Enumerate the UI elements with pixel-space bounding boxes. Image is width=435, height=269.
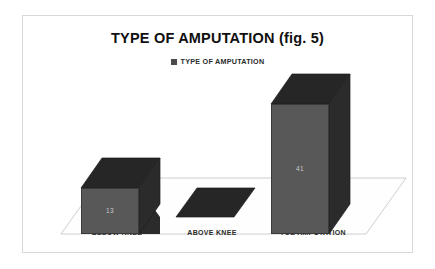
bar-top-face (176, 188, 255, 217)
bar-value-below-knee: 13 (81, 207, 139, 214)
bars-layer: 13 41 (23, 74, 414, 254)
chart-title: TYPE OF AMPUTATION (fig. 5) (23, 30, 412, 46)
bar-flat-faces (176, 188, 256, 218)
bar-above-knee[interactable] (176, 196, 234, 218)
plot-area: 13 41 (23, 74, 414, 254)
legend-entry-label: TYPE OF AMPUTATION (181, 57, 265, 66)
chart-legend: TYPE OF AMPUTATION (23, 57, 412, 66)
bar-below-knee[interactable]: 13 (81, 188, 139, 234)
bar-toe-amputation[interactable]: 41 (271, 104, 329, 234)
chart-container: TYPE OF AMPUTATION (fig. 5) TYPE OF AMPU… (22, 15, 413, 253)
legend-swatch-icon (171, 59, 177, 65)
bar-value-toe-amputation: 41 (271, 165, 329, 172)
category-label-above-knee: ABOVE KNEE (167, 229, 257, 236)
